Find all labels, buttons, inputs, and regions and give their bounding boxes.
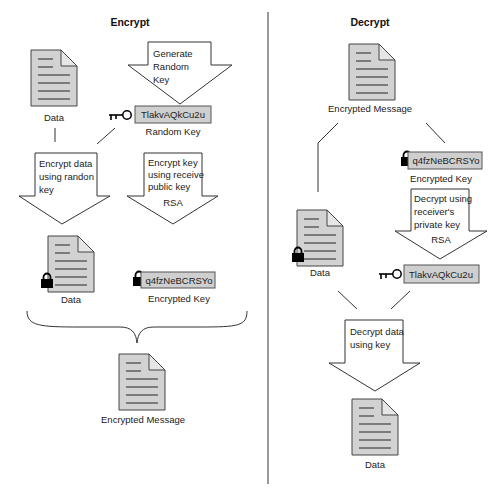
connector	[97, 128, 115, 144]
document-icon	[119, 354, 165, 410]
decrypt-data-line-2: using key	[350, 339, 390, 350]
encrypt-title: Encrypt	[110, 16, 150, 28]
decrypted-data-label: Data	[365, 459, 386, 470]
padlock-icon	[41, 274, 53, 289]
decrypt-key-line-2: receiver's	[414, 206, 455, 217]
decrypt-data-line-1: Decrypt data	[350, 326, 405, 337]
encrypt-key-line-1: Encrypt key	[148, 157, 198, 168]
decrypt-key-algo: RSA	[431, 234, 451, 245]
encrypt-data-line-2: using randon	[39, 171, 94, 182]
encrypted-message-label: Encrypted Message	[328, 103, 412, 114]
encrypted-key-value: q4fzNeBCRSYo	[145, 275, 212, 286]
connector	[391, 291, 410, 309]
encrypted-message-label: Encrypted Message	[101, 414, 185, 425]
key-icon	[109, 111, 131, 120]
encrypt-key-line-3: public key	[148, 181, 190, 192]
encrypt-key-algo: RSA	[163, 197, 183, 208]
document-icon	[352, 399, 398, 455]
encrypt-data-line-1: Encrypt data	[39, 158, 93, 169]
encrypted-key-label: Encrypted Key	[148, 293, 210, 304]
encrypted-key-label: Encrypted Key	[410, 173, 472, 184]
random-key-value: TlakvAQkCu2u	[141, 109, 205, 120]
random-key-value: TlakvAQkCu2u	[409, 269, 473, 280]
encrypted-data-label: Data	[310, 267, 331, 278]
encrypted-key-value: q4fzNeBCRSYo	[412, 155, 479, 166]
generate-arrow-line-2: Random	[153, 61, 189, 72]
decrypt-title: Decrypt	[350, 16, 390, 28]
data-label: Data	[44, 112, 65, 123]
encryption-diagram: Encrypt Data Generate Random Key TlakvAQ…	[0, 0, 500, 495]
decrypt-key-line-1: Decrypt using	[414, 193, 472, 204]
decrypt-key-line-3: private key	[414, 219, 460, 230]
key-icon	[379, 270, 401, 279]
connector	[426, 123, 445, 143]
random-key-label: Random Key	[146, 126, 201, 137]
encrypted-data-label: Data	[61, 294, 82, 305]
document-icon	[31, 50, 77, 106]
document-icon	[349, 44, 395, 100]
generate-arrow-line-3: Key	[153, 74, 170, 85]
generate-arrow-line-1: Generate	[153, 48, 193, 59]
encrypt-data-line-3: key	[39, 184, 54, 195]
encrypt-key-line-2: using receive	[148, 169, 204, 180]
connector	[318, 123, 338, 192]
document-icon	[48, 236, 94, 292]
combine-brace	[27, 311, 247, 343]
connector	[338, 291, 357, 309]
